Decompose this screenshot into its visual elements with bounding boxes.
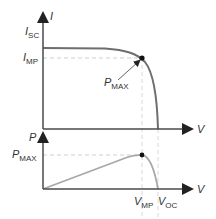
pv-y-axis-label: P [29, 131, 37, 143]
pv-x-axis-label: V [197, 183, 206, 195]
pv-max-power-point [140, 153, 145, 158]
iv-pv-diagram: I V ISC IMP PMAX P V PMAX VMP VOC [0, 0, 216, 219]
iv-max-power-point [139, 55, 144, 60]
isc-label: ISC [25, 25, 39, 40]
pv-pmax-label: PMAX [12, 148, 37, 163]
voc-label: VOC [158, 195, 178, 210]
iv-y-axis-label: I [50, 10, 53, 22]
iv-plot: I V ISC IMP PMAX [23, 10, 206, 219]
pv-curve [43, 155, 158, 189]
imp-label: IMP [23, 51, 38, 66]
iv-x-axis-label: V [197, 123, 206, 135]
iv-pmax-label: PMAX [104, 76, 129, 91]
pmax-pointer-arrow [118, 62, 138, 80]
pv-plot: P V PMAX VMP VOC [12, 131, 206, 210]
vmp-label: VMP [134, 195, 153, 210]
